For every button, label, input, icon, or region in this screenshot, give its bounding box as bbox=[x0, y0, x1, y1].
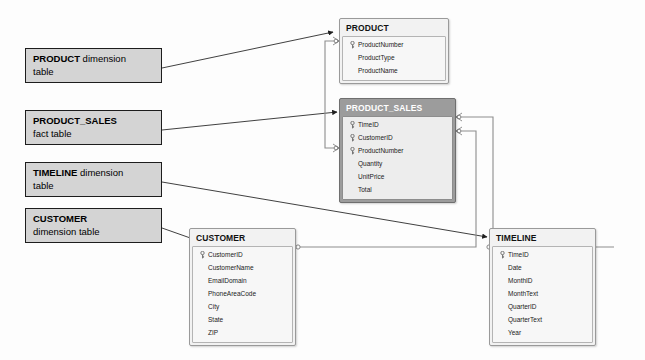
timeline-callout-rest: dimension bbox=[77, 167, 123, 178]
customer-callout: CUSTOMER dimension table bbox=[25, 208, 162, 243]
product-sales-callout-strong: PRODUCT_SALES bbox=[33, 115, 117, 126]
field-label: ProductNumber bbox=[357, 41, 404, 48]
entity-product-title: PRODUCT bbox=[342, 21, 446, 36]
field-row[interactable]: TimeID bbox=[493, 248, 592, 261]
primary-key-icon bbox=[347, 147, 357, 155]
timeline-callout: TIMELINE dimension table bbox=[25, 162, 162, 197]
field-label: PhoneAreaCode bbox=[207, 290, 256, 297]
customer-callout-strong: CUSTOMER bbox=[33, 213, 87, 224]
field-label: MonthText bbox=[507, 290, 538, 297]
product-callout-line2: table bbox=[33, 66, 155, 79]
entity-product[interactable]: PRODUCT ProductNumberProductTypeProductN… bbox=[339, 18, 449, 84]
product-callout-strong: PRODUCT bbox=[33, 53, 80, 64]
product-callout: PRODUCT dimension table bbox=[25, 48, 162, 83]
field-row[interactable]: TimeID bbox=[343, 118, 452, 131]
field-row[interactable]: QuarterID bbox=[493, 300, 592, 313]
field-row[interactable]: ProductNumber bbox=[343, 144, 452, 157]
field-row[interactable]: CustomerName bbox=[193, 261, 292, 274]
primary-key-icon bbox=[347, 121, 357, 129]
primary-key-icon bbox=[197, 251, 207, 259]
field-row[interactable]: CustomerID bbox=[193, 248, 292, 261]
diagram-canvas: PRODUCT dimension table PRODUCT_SALES fa… bbox=[0, 0, 645, 360]
field-row[interactable]: MonthID bbox=[493, 274, 592, 287]
field-row[interactable]: Date bbox=[493, 261, 592, 274]
product-callout-rest: dimension bbox=[80, 53, 126, 64]
leader-product-sales bbox=[162, 112, 337, 130]
entity-product-sales-fields: TimeIDCustomerIDProductNumberQuantityUni… bbox=[342, 116, 453, 200]
field-row[interactable]: Total bbox=[343, 183, 452, 196]
entity-timeline[interactable]: TIMELINE TimeIDDateMonthIDMonthTextQuart… bbox=[489, 228, 596, 346]
entity-product-sales-title: PRODUCT_SALES bbox=[342, 101, 453, 116]
entity-customer[interactable]: CUSTOMER CustomerIDCustomerNameEmailDoma… bbox=[189, 228, 296, 346]
field-row[interactable]: Year bbox=[493, 326, 592, 339]
field-label: ProductName bbox=[357, 67, 398, 74]
entity-product-sales[interactable]: PRODUCT_SALES TimeIDCustomerIDProductNum… bbox=[339, 98, 456, 203]
field-label: ProductType bbox=[357, 54, 395, 61]
field-label: State bbox=[207, 316, 223, 323]
primary-key-icon bbox=[350, 121, 355, 129]
field-label: QuarterText bbox=[507, 316, 542, 323]
field-row[interactable]: City bbox=[193, 300, 292, 313]
primary-key-icon bbox=[347, 41, 357, 49]
field-label: TimeID bbox=[507, 251, 529, 258]
field-row[interactable]: Quantity bbox=[343, 157, 452, 170]
rel-product-sales-endpoints bbox=[334, 39, 338, 150]
timeline-callout-line2: table bbox=[33, 180, 155, 193]
field-label: CustomerName bbox=[207, 264, 254, 271]
field-label: TimeID bbox=[357, 121, 379, 128]
field-row[interactable]: MonthText bbox=[493, 287, 592, 300]
field-label: Total bbox=[357, 186, 372, 193]
field-label: CustomerID bbox=[357, 134, 393, 141]
primary-key-icon bbox=[350, 134, 355, 142]
primary-key-icon bbox=[200, 251, 205, 259]
primary-key-icon bbox=[500, 251, 505, 259]
primary-key-icon bbox=[350, 147, 355, 155]
customer-callout-line2: dimension table bbox=[33, 226, 155, 239]
field-label: Quantity bbox=[357, 160, 382, 167]
field-label: ProductNumber bbox=[357, 147, 404, 154]
primary-key-icon bbox=[350, 41, 355, 49]
field-label: EmailDomain bbox=[207, 277, 247, 284]
field-label: Date bbox=[507, 264, 522, 271]
field-label: CustomerID bbox=[207, 251, 243, 258]
field-label: ZIP bbox=[207, 329, 218, 336]
field-row[interactable]: PhoneAreaCode bbox=[193, 287, 292, 300]
field-row[interactable]: ProductNumber bbox=[343, 38, 445, 51]
field-label: QuarterID bbox=[507, 303, 537, 310]
product-sales-callout-line2: fact table bbox=[33, 128, 155, 141]
field-row[interactable]: ZIP bbox=[193, 326, 292, 339]
field-label: MonthID bbox=[507, 277, 533, 284]
primary-key-icon bbox=[347, 134, 357, 142]
entity-timeline-fields: TimeIDDateMonthIDMonthTextQuarterIDQuart… bbox=[492, 246, 593, 343]
leader-product bbox=[162, 32, 333, 68]
rel-product-sales bbox=[325, 41, 339, 148]
field-row[interactable]: ProductName bbox=[343, 64, 445, 77]
field-row[interactable]: ProductType bbox=[343, 51, 445, 64]
field-row[interactable]: EmailDomain bbox=[193, 274, 292, 287]
product-sales-callout: PRODUCT_SALES fact table bbox=[25, 110, 162, 145]
field-label: Year bbox=[507, 329, 521, 336]
entity-timeline-title: TIMELINE bbox=[492, 231, 593, 246]
entity-product-fields: ProductNumberProductTypeProductName bbox=[342, 36, 446, 81]
field-row[interactable]: UnitPrice bbox=[343, 170, 452, 183]
primary-key-icon bbox=[497, 251, 507, 259]
field-row[interactable]: State bbox=[193, 313, 292, 326]
entity-customer-fields: CustomerIDCustomerNameEmailDomainPhoneAr… bbox=[192, 246, 293, 343]
entity-customer-title: CUSTOMER bbox=[192, 231, 293, 246]
timeline-callout-strong: TIMELINE bbox=[33, 167, 77, 178]
field-row[interactable]: QuarterText bbox=[493, 313, 592, 326]
field-label: UnitPrice bbox=[357, 173, 384, 180]
field-row[interactable]: CustomerID bbox=[343, 131, 452, 144]
field-label: City bbox=[207, 303, 219, 310]
